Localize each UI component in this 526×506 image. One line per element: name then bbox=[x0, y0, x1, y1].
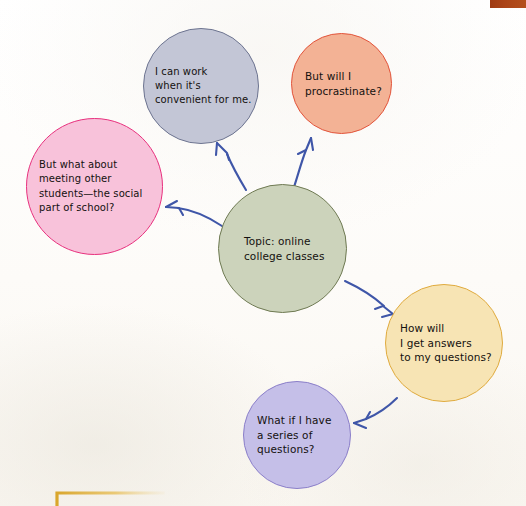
node-bubble-answers[interactable]: How will I get answers to my questions? bbox=[385, 284, 503, 402]
mind-map-page: I can work when it's convenient for me. … bbox=[0, 0, 526, 506]
node-bubble-work[interactable]: I can work when it's convenient for me. bbox=[143, 28, 259, 144]
node-label-social: But what about meeting other students—th… bbox=[27, 158, 142, 215]
arrow-answers-to-series bbox=[354, 398, 397, 428]
node-label-series: What if I have a series of questions? bbox=[244, 413, 331, 458]
arrow-topic-to-social bbox=[166, 201, 222, 226]
node-label-procrastinate: But will I procrastinate? bbox=[292, 69, 382, 99]
node-bubble-procrastinate[interactable]: But will I procrastinate? bbox=[291, 33, 392, 134]
node-bubble-topic-center[interactable]: Topic: online college classes bbox=[218, 184, 347, 313]
arrow-topic-to-answers bbox=[345, 281, 393, 317]
top-right-color-bar bbox=[490, 0, 526, 8]
arrow-topic-to-procrastinate bbox=[294, 138, 313, 187]
node-label-topic-center: Topic: online college classes bbox=[219, 234, 324, 264]
bottom-left-corner-bracket bbox=[55, 489, 165, 506]
node-label-answers: How will I get answers to my questions? bbox=[386, 321, 492, 366]
node-bubble-series[interactable]: What if I have a series of questions? bbox=[243, 381, 351, 489]
node-label-work: I can work when it's convenient for me. bbox=[144, 65, 252, 108]
node-bubble-social[interactable]: But what about meeting other students—th… bbox=[26, 118, 163, 255]
arrow-topic-to-work bbox=[216, 143, 246, 190]
